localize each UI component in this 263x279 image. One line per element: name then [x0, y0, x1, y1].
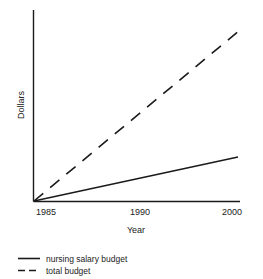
- line-chart: 1985 1990 2000 Year Dollars nursing sala…: [0, 0, 263, 279]
- chart-figure: 1985 1990 2000 Year Dollars nursing sala…: [0, 0, 263, 279]
- legend: nursing salary budget total budget: [18, 254, 128, 276]
- x-tick-label-1990: 1990: [130, 207, 150, 217]
- x-tick-label-2000: 2000: [222, 207, 242, 217]
- series-line-nursing-salary-budget: [34, 157, 238, 201]
- x-tick-label-1985: 1985: [36, 207, 56, 217]
- legend-label-nursing-salary-budget: nursing salary budget: [46, 254, 128, 264]
- series-line-total-budget: [34, 30, 240, 201]
- legend-label-total-budget: total budget: [46, 266, 91, 276]
- x-axis-title: Year: [127, 225, 145, 235]
- y-axis-title: Dollars: [16, 91, 26, 120]
